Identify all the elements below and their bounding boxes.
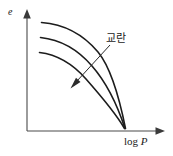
x-axis-label-prefix: log [124,135,141,147]
vertical-axis [23,9,31,131]
annotation-label: 교란 [106,33,126,44]
x-axis-label: log P [124,136,148,147]
figure-container: e log P 교란 [0,0,173,156]
data-curve-middle [41,38,126,129]
x-axis-label-variable: P [141,135,148,147]
figure-canvas [0,0,173,156]
data-curve-lower [40,53,125,129]
y-axis-label: e [8,7,12,17]
horizontal-axis [27,127,165,135]
